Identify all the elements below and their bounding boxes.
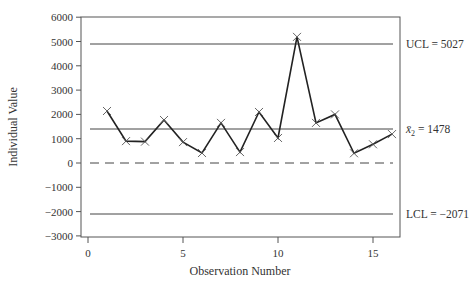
y-tick-label: 4000 [51,60,74,72]
y-axis: 6000500040003000200010000−1000−2000−3000 [45,11,81,242]
y-tick-label: −1000 [45,181,74,193]
series-line [107,37,392,153]
x-marker-icon [103,107,111,115]
lcl-label: LCL = −2071 [406,208,469,220]
y-tick-label: −2000 [45,206,74,218]
data-series [103,33,396,157]
plot-border [81,17,400,237]
y-axis-title: Individual Value [6,87,20,166]
y-tick-label: 2000 [51,108,74,120]
y-tick-label: 0 [68,157,74,169]
x-marker-icon [369,140,377,148]
x-marker-icon [236,148,244,156]
x-marker-icon [179,138,187,146]
reference-labels: UCL = 5027x̄2 = 1478LCL = −2071 [405,38,469,220]
control-chart: 6000500040003000200010000−1000−2000−3000… [0,0,475,285]
x-marker-icon [331,110,339,118]
x-tick-label: 15 [368,247,380,259]
y-tick-label: −3000 [45,230,74,242]
x-tick-label: 5 [180,247,186,259]
y-tick-label: 5000 [51,36,74,48]
x-marker-icon [198,149,206,157]
y-tick-label: 3000 [51,84,74,96]
x-marker-icon [160,116,168,124]
x-axis: 051015 [85,237,379,259]
reference-lines [90,44,393,214]
y-tick-label: 6000 [51,11,74,23]
ucl-label: UCL = 5027 [406,38,464,50]
plot-frame [81,17,400,237]
y-tick-label: 1000 [51,133,74,145]
x-marker-icon [350,149,358,157]
x-marker-icon [217,119,225,127]
x-tick-label: 10 [273,247,285,259]
center-line-label: x̄2 = 1478 [405,123,451,138]
x-axis-title: Observation Number [190,264,291,278]
x-marker-icon [255,108,263,116]
x-marker-icon [388,130,396,138]
x-tick-label: 0 [85,247,91,259]
